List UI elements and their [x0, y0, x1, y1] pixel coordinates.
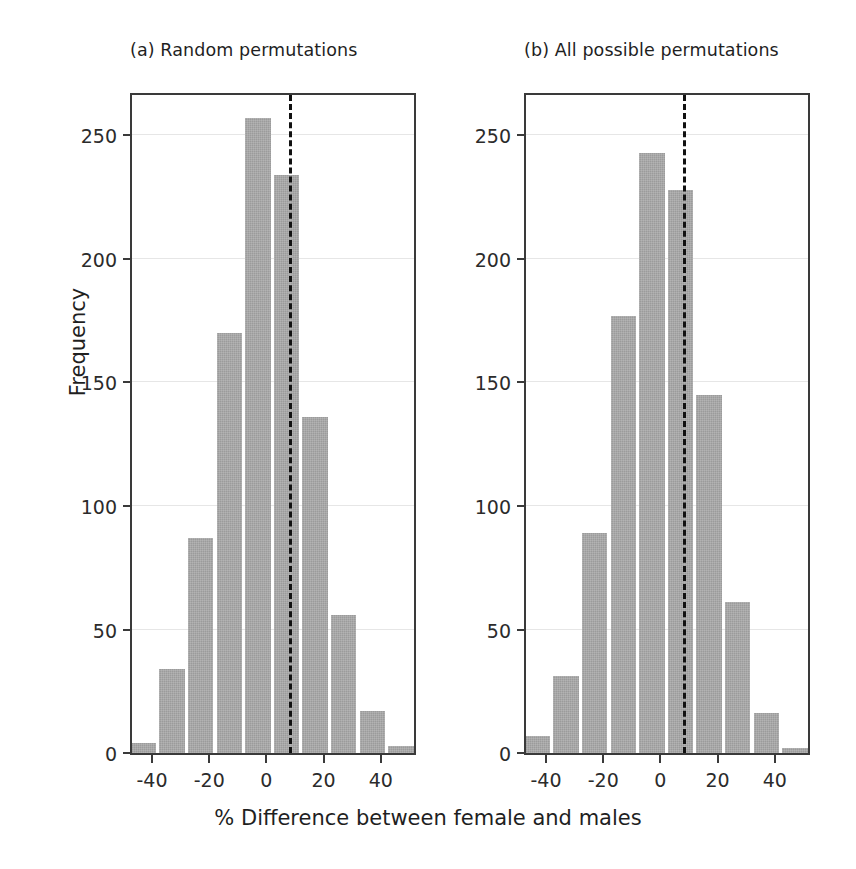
histogram-bar [274, 175, 299, 753]
histogram-bar [245, 118, 270, 753]
gridline [132, 134, 414, 135]
y-tick-mark [517, 629, 526, 631]
observed-value-dashed-line [289, 95, 292, 753]
x-tick-label: 40 [351, 769, 411, 791]
histogram-bar [132, 743, 156, 753]
y-tick-mark [123, 505, 132, 507]
histogram-bar [782, 748, 807, 753]
y-tick-mark [517, 134, 526, 136]
histogram-bar [754, 713, 779, 753]
histogram-bar [696, 395, 721, 753]
y-tick-mark [123, 381, 132, 383]
x-tick-mark [545, 753, 547, 763]
panel-b-title: (b) All possible permutations [524, 40, 779, 60]
y-tick-mark [517, 258, 526, 260]
x-tick-mark [323, 753, 325, 763]
panel-a-plot-inner [132, 95, 414, 753]
y-tick-mark [123, 258, 132, 260]
y-tick-mark [123, 752, 132, 754]
panel-b: (b) All possible permutations 0501001502… [470, 0, 856, 869]
y-tick-label: 0 [451, 743, 511, 765]
x-tick-label: 20 [688, 769, 748, 791]
x-tick-mark [659, 753, 661, 763]
histogram-bar [188, 538, 213, 753]
y-tick-label: 50 [451, 620, 511, 642]
histogram-bar [217, 333, 242, 753]
y-tick-label: 100 [451, 496, 511, 518]
histogram-bar [331, 615, 356, 753]
histogram-bar [668, 190, 693, 753]
gridline [526, 134, 808, 135]
y-tick-label: 100 [57, 496, 117, 518]
y-tick-label: 250 [451, 125, 511, 147]
histogram-bar [553, 676, 578, 753]
x-tick-mark [774, 753, 776, 763]
panel-b-plot-area: 050100150200250-40-2002040 [524, 93, 810, 755]
x-tick-label: -20 [179, 769, 239, 791]
y-tick-label: 250 [57, 125, 117, 147]
histogram-bar [582, 533, 607, 753]
x-tick-label: 40 [745, 769, 805, 791]
x-tick-mark [265, 753, 267, 763]
y-tick-mark [123, 134, 132, 136]
y-tick-mark [517, 505, 526, 507]
x-tick-label: -40 [122, 769, 182, 791]
y-axis-label: Frequency [66, 252, 90, 432]
permutation-histograms-figure: (a) Random permutations 050100150200250-… [0, 0, 856, 869]
x-tick-label: -20 [573, 769, 633, 791]
y-tick-mark [517, 381, 526, 383]
x-axis-label: % Difference between female and males [0, 806, 856, 830]
y-tick-label: 0 [57, 743, 117, 765]
x-tick-mark [602, 753, 604, 763]
y-tick-label: 50 [57, 620, 117, 642]
x-tick-mark [380, 753, 382, 763]
x-tick-label: 20 [294, 769, 354, 791]
panel-a-plot-area: 050100150200250-40-2002040 [130, 93, 416, 755]
x-tick-label: 0 [236, 769, 296, 791]
histogram-bar [360, 711, 385, 753]
histogram-bar [639, 153, 664, 753]
x-tick-mark [151, 753, 153, 763]
histogram-bar [611, 316, 636, 753]
histogram-bar [302, 417, 327, 753]
x-tick-label: -40 [516, 769, 576, 791]
histogram-bar [388, 746, 413, 753]
histogram-bar [526, 736, 550, 753]
histogram-bar [159, 669, 184, 753]
y-tick-label: 150 [451, 372, 511, 394]
y-tick-mark [123, 629, 132, 631]
y-tick-label: 200 [451, 249, 511, 271]
x-tick-mark [717, 753, 719, 763]
y-tick-mark [517, 752, 526, 754]
histogram-bar [725, 602, 750, 753]
x-tick-label: 0 [630, 769, 690, 791]
panel-a-title: (a) Random permutations [130, 40, 357, 60]
panel-b-plot-inner [526, 95, 808, 753]
x-tick-mark [208, 753, 210, 763]
observed-value-dashed-line [683, 95, 686, 753]
panel-a: (a) Random permutations 050100150200250-… [0, 0, 470, 869]
